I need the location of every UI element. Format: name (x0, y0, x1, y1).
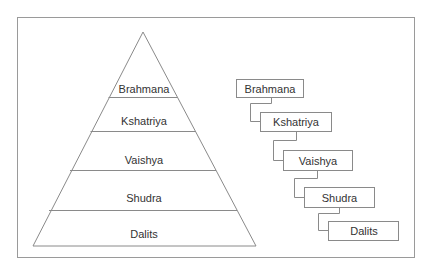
pyramid-level-label: Vaishya (125, 154, 164, 166)
pyramid-level-label: Brahmana (119, 83, 171, 95)
pyramid-outline (33, 32, 256, 246)
pyramid-level-label: Shudra (126, 192, 162, 204)
box-label: Dalits (350, 225, 378, 237)
box-label: Shudra (322, 192, 358, 204)
box-label: Kshatriya (273, 116, 320, 128)
box-label: Vaishya (299, 155, 338, 167)
pyramid-level-label: Dalits (130, 228, 158, 240)
pyramid-level-label: Kshatriya (121, 115, 168, 127)
box-label: Brahmana (245, 83, 297, 95)
pyramid-labels: Brahmana Kshatriya Vaishya Shudra Dalits (119, 83, 171, 240)
pyramid (33, 32, 256, 246)
caste-diagram: Brahmana Kshatriya Vaishya Shudra Dalits… (0, 0, 431, 270)
